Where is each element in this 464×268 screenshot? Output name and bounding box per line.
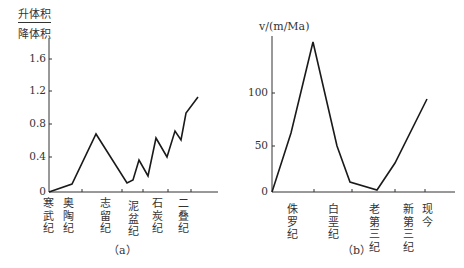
chart-b-xlabel: 新第三纪 <box>402 204 414 254</box>
chart-a-ytick: 0.8 <box>22 117 46 129</box>
chart-a-ylabel-numerator: 升体积 <box>18 5 51 23</box>
chart-a-line <box>49 97 198 192</box>
chart-a-ytick: 1.2 <box>22 84 46 96</box>
chart-a-xlabel: 寒武纪 <box>42 198 54 236</box>
chart-a-ytick: 0.4 <box>22 150 46 162</box>
chart-a-ytick: 1.6 <box>22 52 46 64</box>
chart-b-ylabel: v/(m/Ma) <box>259 21 309 33</box>
chart-a-ylabel: 升体积 降体积 <box>18 5 51 41</box>
chart-b-line <box>272 42 427 192</box>
chart-a-xlabel: 二叠纪 <box>177 198 189 236</box>
chart-a-axes <box>49 38 218 192</box>
chart-b-caption: （b） <box>342 241 371 257</box>
chart-b-axes <box>272 36 455 192</box>
chart-b-xlabel: 现今 <box>421 204 433 229</box>
chart-a-ytick: 0 <box>22 185 46 197</box>
chart-a-xlabel: 志留纪 <box>99 198 111 236</box>
chart-b-xlabel: 白垩纪 <box>327 204 339 242</box>
chart-a-xlabel: 石炭纪 <box>151 198 163 236</box>
chart-b-ytick: 50 <box>244 139 268 151</box>
chart-a-ylabel-denominator: 降体积 <box>18 23 51 41</box>
chart-b-ytick: 0 <box>244 185 268 197</box>
chart-a-caption: （a） <box>108 241 137 257</box>
chart-b-ytick: 100 <box>244 86 268 98</box>
chart-a-xlabel: 奥陶纪 <box>62 198 74 236</box>
chart-b-xlabel: 侏罗纪 <box>286 204 298 242</box>
chart-a-xlabel: 泥盆纪 <box>127 201 139 239</box>
